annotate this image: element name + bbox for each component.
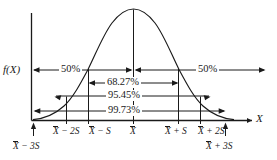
xbar-glyph: X	[206, 142, 212, 152]
xbar-suffix: + 3S	[212, 141, 233, 151]
xbar-glyph: X	[13, 142, 19, 152]
band-label-one-sd: 68.27%	[105, 77, 141, 88]
xbar-suffix: − S	[95, 126, 111, 136]
x-tick-label-plus-2s: X + 2S	[198, 127, 224, 137]
footer-label-plus-3s: X + 3S	[206, 142, 232, 152]
band-label-right-half: 50%	[196, 64, 219, 75]
x-tick-label-minus-2s: X − 2S	[53, 127, 79, 137]
band-label-two-sd: 95.45%	[106, 90, 142, 101]
xbar-glyph: X	[89, 127, 95, 137]
x-tick-label-mean: X	[130, 127, 136, 137]
x-tick-label-plus-1s: X + S	[165, 127, 187, 137]
xbar-glyph: X	[130, 127, 136, 137]
xbar-suffix: + S	[171, 126, 187, 136]
y-axis-label: f(X)	[3, 64, 20, 75]
band-label-left-half: 50%	[59, 64, 82, 75]
band-left-half	[33, 67, 133, 72]
normal-distribution-figure: f(X) X 50% 50% 68.27% 95.45% 99.73% X − …	[0, 0, 277, 160]
xbar-glyph: X	[53, 127, 59, 137]
band-label-three-sd: 99.73%	[106, 105, 142, 116]
xbar-suffix: − 2S	[59, 126, 80, 136]
xbar-suffix: − 3S	[19, 141, 40, 151]
xbar-glyph: X	[198, 127, 204, 137]
callout-arrow-minus-3s	[31, 123, 36, 137]
x-tick-label-minus-1s: X − S	[89, 127, 111, 137]
xbar-suffix: + 2S	[204, 126, 225, 136]
x-axis-arrowhead	[247, 118, 252, 123]
x-axis-label: X	[256, 113, 263, 124]
footer-label-minus-3s: X − 3S	[13, 142, 39, 152]
xbar-glyph: X	[165, 127, 171, 137]
